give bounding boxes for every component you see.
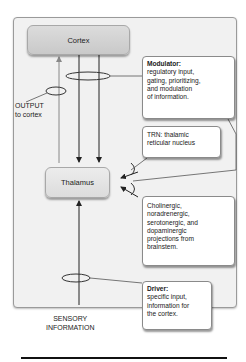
trn-note: TRN: thalamic reticular nucleus (142, 126, 221, 158)
note-line: TRN: thalamic (147, 131, 216, 139)
note-line: the cortex. (147, 310, 207, 318)
driver-note: Driver: specific input, information for … (142, 281, 212, 330)
note-line: projections from (147, 235, 230, 243)
sensory-label-line2: INFORMATION (46, 324, 94, 333)
note-line: reticular nucleus (147, 139, 216, 147)
driver-title: Driver: (147, 285, 207, 293)
bottom-rule-divider (21, 357, 227, 359)
output-label-line1: OUTPUT (15, 102, 44, 111)
note-line: serotonergic, and (147, 219, 230, 227)
cortex-node: Cortex (27, 25, 130, 55)
note-line: information for (147, 302, 207, 310)
note-line: regulatory input, (147, 68, 230, 76)
note-line: of information. (147, 93, 230, 101)
note-line: Cholinergic, (147, 202, 230, 210)
output-label: OUTPUT to cortex (15, 102, 44, 119)
note-line: brainstem. (147, 243, 230, 251)
sensory-label-line1: SENSORY (46, 315, 94, 324)
note-line: dopaminergic (147, 227, 230, 235)
sensory-label: SENSORY INFORMATION (46, 315, 94, 332)
output-label-line2: to cortex (15, 111, 44, 120)
cortex-label: Cortex (67, 36, 89, 45)
modulator-title: Modulator: (147, 60, 230, 68)
note-line: specific input, (147, 293, 207, 301)
brainstem-projections-note: Cholinergic, noradrenergic, serotonergic… (142, 196, 235, 266)
note-line: gating, prioritizing, (147, 77, 230, 85)
thalamus-node: Thalamus (45, 167, 110, 198)
modulator-note: Modulator: regulatory input, gating, pri… (142, 56, 235, 119)
thalamus-label: Thalamus (61, 178, 94, 187)
note-line: and modulation (147, 85, 230, 93)
note-line: noradrenergic, (147, 210, 230, 218)
